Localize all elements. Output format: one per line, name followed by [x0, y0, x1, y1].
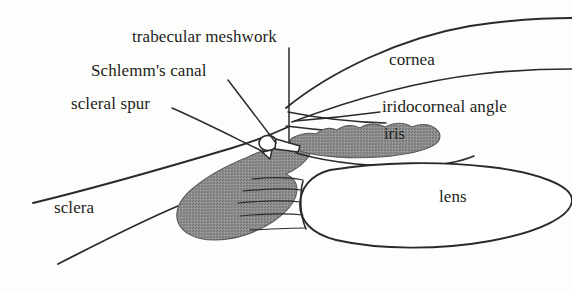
- label-schlemms-canal: Schlemm's canal: [91, 62, 207, 79]
- leader-line-schlemms-canal: [228, 80, 276, 143]
- label-iridocorneal-angle: iridocorneal angle: [382, 98, 507, 115]
- lens-body: [300, 163, 572, 247]
- label-sclera: sclera: [54, 199, 94, 216]
- leader-line-scleral-spur: [172, 108, 264, 152]
- anatomy-figure: trabecular meshwork Schlemm's canal scle…: [0, 0, 572, 292]
- eye-anterior-chamber-artwork: [0, 0, 572, 292]
- label-lens: lens: [439, 188, 467, 205]
- label-scleral-spur: scleral spur: [71, 95, 150, 112]
- schlemms-canal-ring: [259, 136, 277, 151]
- label-iris: iris: [384, 126, 405, 142]
- label-cornea: cornea: [389, 51, 435, 68]
- label-trabecular-meshwork: trabecular meshwork: [132, 28, 277, 45]
